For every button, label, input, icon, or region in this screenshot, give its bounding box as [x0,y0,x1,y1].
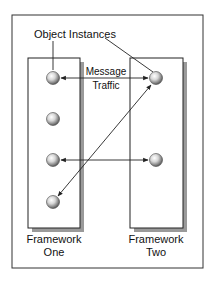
framework-two-label-line1: Framework [128,233,184,245]
framework-two-shadow-bottom [134,228,187,232]
framework-one-label-line2: One [44,246,65,258]
framework-two-shadow [183,62,187,232]
framework-diagram: Object Instances Message Traffic Framewo… [0,0,210,283]
framework-one-label-line1: Framework [26,233,82,245]
framework-two-object-1 [150,72,163,85]
framework-one-object-3 [47,154,60,167]
framework-two-object-2 [150,154,163,167]
framework-two-label-line2: Two [146,246,166,258]
framework-one-shadow [80,62,84,232]
message-label-line2: Traffic [92,80,119,91]
callout-label: Object Instances [34,28,116,40]
framework-one-object-1 [47,72,60,85]
framework-one-object-2 [47,113,60,126]
framework-one-shadow-bottom [32,228,84,232]
framework-one-object-4 [47,196,60,209]
message-label-line1: Message [86,66,127,77]
